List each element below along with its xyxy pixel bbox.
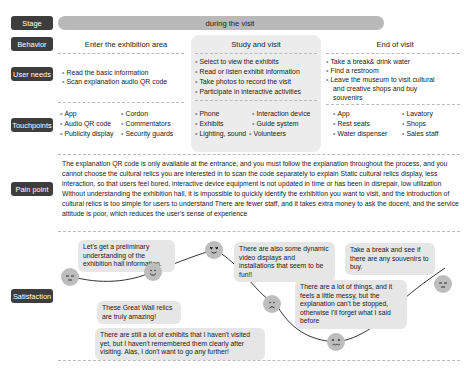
speech-bubble: There are a lot of things, and it feels … <box>295 280 407 329</box>
sad-face-icon <box>263 295 281 313</box>
speech-bubble: There are also some dynamic video displa… <box>234 242 335 282</box>
smile-face-icon <box>144 263 162 281</box>
speech-bubble: These Great Wall relics are truly amazin… <box>97 301 181 324</box>
distressed-face-icon <box>327 333 345 351</box>
speech-bubble: There are still a lot of exhibits that I… <box>95 328 265 360</box>
divider <box>58 360 460 361</box>
neutral-face-icon <box>61 268 79 286</box>
neutral-face-icon <box>434 275 452 293</box>
love-face-icon <box>205 241 223 259</box>
speech-bubble: Take a break and see if there are any so… <box>345 243 435 275</box>
